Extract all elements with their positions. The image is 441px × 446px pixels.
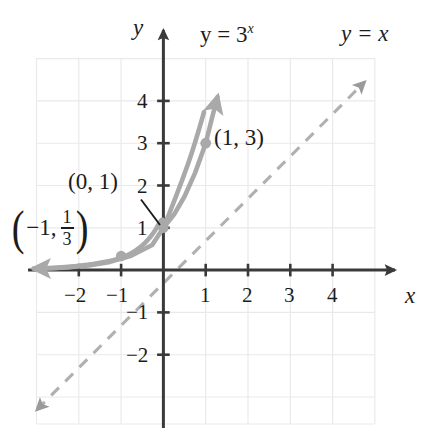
y-tick-label-4: 4 xyxy=(137,91,148,112)
point-marker-1-3 xyxy=(200,138,211,149)
point-marker-neg1-third xyxy=(116,251,126,261)
exponential-graph-figure: y x y = 3x y = x (1, 3) (0, 1) ( −1, 1 3… xyxy=(0,0,441,446)
x-axis-label: x xyxy=(405,284,415,307)
x-tick-label-neg2: −2 xyxy=(64,285,86,306)
curve-label-exponential: y = 3x xyxy=(200,22,254,46)
fraction-one-third: 1 3 xyxy=(61,208,74,248)
y-tick-label-3: 3 xyxy=(137,133,148,154)
fraction-numerator: 1 xyxy=(61,208,74,226)
y-tick-label-2: 2 xyxy=(137,176,148,197)
point-label-neg1-one-third: ( −1, 1 3 ) xyxy=(10,208,90,248)
y-tick-label-neg1: −1 xyxy=(126,302,148,323)
y-tick-label-1: 1 xyxy=(137,218,148,239)
curve-label-exponential-text: y = 3 xyxy=(200,22,247,47)
curve-label-exponential-exponent: x xyxy=(247,21,253,36)
point-label-0-1: (0, 1) xyxy=(68,170,118,193)
point-label-neg1-x: −1, xyxy=(26,215,56,241)
x-tick-label-1: 1 xyxy=(200,285,211,306)
paren-close: ) xyxy=(75,210,88,246)
x-tick-label-3: 3 xyxy=(284,285,295,306)
x-tick-label-2: 2 xyxy=(242,285,253,306)
curve-label-identity: y = x xyxy=(341,22,388,45)
y-tick-label-neg2: −2 xyxy=(126,345,148,366)
point-label-neg1-body: −1, 1 3 xyxy=(26,208,73,248)
x-tick-label-neg1: −1 xyxy=(106,285,128,306)
fraction-denominator: 3 xyxy=(61,230,74,248)
x-tick-label-4: 4 xyxy=(327,285,338,306)
paren-open: ( xyxy=(12,210,25,246)
y-axis-label: y xyxy=(133,16,143,39)
point-label-1-3: (1, 3) xyxy=(214,126,264,149)
